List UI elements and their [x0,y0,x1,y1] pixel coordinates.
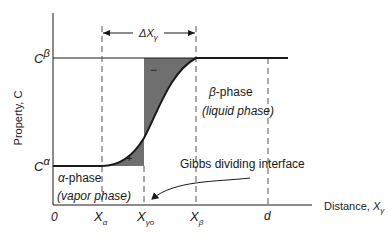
tick-x-beta: Xβ [189,209,204,227]
x-axis-label: Distance, Xγ [324,200,385,215]
c-alpha-label: Cα [34,155,50,174]
c-beta-label: Cβ [34,47,50,66]
negative-sign: − [150,63,157,77]
tick-origin: 0 [51,210,58,224]
gibbs-interface-annotation: Gibbs dividing interface [180,157,305,171]
tick-x-alpha: Xα [93,209,108,227]
liquid-phase-label: (liquid phase) [202,104,274,118]
y-axis-label: Property, C [12,91,24,146]
vapor-phase-label: (vapor phase) [57,189,131,203]
tick-d: d [264,209,271,223]
alpha-phase-label: α-phase [58,171,102,185]
shaded-region-positive [102,138,144,166]
positive-sign: + [126,152,132,164]
gibbs-interface-arrow [152,178,250,199]
diagram-canvas: Property, C Cβ Cα ΔXγ − + β-phase (liqui… [0,0,392,238]
tick-x-gamma-o: Xγo [136,209,155,227]
delta-x-gamma-label: ΔXγ [138,27,159,42]
beta-phase-label: β-phase [208,85,253,99]
